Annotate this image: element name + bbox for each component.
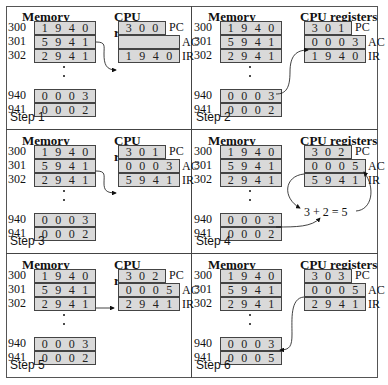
memory-address: 302 bbox=[194, 48, 220, 63]
ir-register: 5941 bbox=[118, 173, 180, 187]
pc-register: 301 bbox=[304, 21, 352, 35]
memory-cell: 2941 bbox=[220, 49, 282, 63]
step-panel-1: MemoryCPU registers300194030159413022941… bbox=[6, 6, 192, 130]
memory-address: 301 bbox=[8, 34, 34, 49]
step-label: Step 2 bbox=[196, 110, 231, 124]
memory-cell: 0003 bbox=[34, 89, 96, 103]
ir-label: IR bbox=[368, 49, 380, 64]
ir-register: 2941 bbox=[118, 297, 180, 311]
ac-label: AC bbox=[368, 283, 385, 298]
memory-cell: 2941 bbox=[34, 173, 96, 187]
memory-address: 301 bbox=[194, 282, 220, 297]
memory-address: 300 bbox=[194, 144, 220, 159]
ac-register bbox=[118, 35, 180, 49]
pc-register: 303 bbox=[304, 269, 352, 283]
step-label: Step 6 bbox=[196, 358, 231, 372]
ir-register: 2941 bbox=[304, 297, 366, 311]
pc-label: PC bbox=[355, 20, 370, 35]
ellipsis-dot bbox=[249, 190, 251, 192]
pc-label: PC bbox=[169, 268, 184, 283]
ir-label: IR bbox=[368, 173, 380, 188]
step-panel-4: MemoryCPU registers300194030159413022941… bbox=[192, 130, 378, 254]
memory-cell: 0003 bbox=[34, 337, 96, 351]
memory-cell: 0003 bbox=[34, 213, 96, 227]
memory-address: 940 bbox=[8, 212, 34, 227]
step-panel-2: MemoryCPU registers300194030159413022941… bbox=[192, 6, 378, 130]
memory-address: 302 bbox=[194, 172, 220, 187]
ellipsis-dot bbox=[63, 199, 65, 201]
pc-register: 302 bbox=[304, 145, 352, 159]
ac-register: 0005 bbox=[304, 159, 366, 173]
pc-label: PC bbox=[355, 144, 370, 159]
ellipsis-dot bbox=[249, 66, 251, 68]
step-panel-6: MemoryCPU registers300194030159413022941… bbox=[192, 254, 378, 378]
ir-register: 1940 bbox=[118, 49, 180, 63]
memory-address: 301 bbox=[194, 34, 220, 49]
ac-register: 0005 bbox=[118, 283, 180, 297]
memory-address: 301 bbox=[8, 158, 34, 173]
memory-address: 302 bbox=[194, 296, 220, 311]
memory-cell: 0003 bbox=[220, 89, 282, 103]
ac-register: 0003 bbox=[304, 35, 366, 49]
memory-cell: 0003 bbox=[220, 213, 282, 227]
memory-address: 302 bbox=[8, 48, 34, 63]
ellipsis-dot bbox=[249, 199, 251, 201]
ir-label: IR bbox=[368, 297, 380, 312]
ellipsis-dot bbox=[63, 75, 65, 77]
ir-register: 5941 bbox=[304, 173, 366, 187]
memory-cell: 5941 bbox=[220, 35, 282, 49]
memory-cell: 1940 bbox=[220, 21, 282, 35]
ellipsis-dot bbox=[63, 66, 65, 68]
step-label: Step 5 bbox=[10, 358, 45, 372]
memory-cell: 2941 bbox=[220, 297, 282, 311]
memory-cell: 5941 bbox=[34, 283, 96, 297]
memory-cell: 2941 bbox=[34, 297, 96, 311]
pc-register: 302 bbox=[118, 269, 166, 283]
memory-cell: 0003 bbox=[220, 337, 282, 351]
ellipsis-dot bbox=[63, 314, 65, 316]
memory-address: 940 bbox=[8, 336, 34, 351]
memory-cell: 1940 bbox=[220, 145, 282, 159]
memory-cell: 1940 bbox=[34, 269, 96, 283]
memory-address: 302 bbox=[8, 172, 34, 187]
step-panel-3: MemoryCPU registers300194030159413022941… bbox=[6, 130, 192, 254]
ac-register: 0003 bbox=[118, 159, 180, 173]
memory-address: 300 bbox=[8, 144, 34, 159]
memory-address: 940 bbox=[194, 88, 220, 103]
memory-cell: 1940 bbox=[34, 21, 96, 35]
memory-cell: 5941 bbox=[34, 159, 96, 173]
step-label: Step 3 bbox=[10, 234, 45, 248]
memory-address: 300 bbox=[8, 20, 34, 35]
ellipsis-dot bbox=[63, 190, 65, 192]
memory-cell: 5941 bbox=[34, 35, 96, 49]
memory-address: 302 bbox=[8, 296, 34, 311]
ac-label: AC bbox=[368, 159, 385, 174]
memory-address: 301 bbox=[194, 158, 220, 173]
memory-address: 940 bbox=[8, 88, 34, 103]
memory-cell: 5941 bbox=[220, 159, 282, 173]
ac-register: 0005 bbox=[304, 283, 366, 297]
memory-address: 300 bbox=[194, 20, 220, 35]
ellipsis-dot bbox=[249, 323, 251, 325]
step-label: Step 1 bbox=[10, 110, 45, 124]
memory-address: 940 bbox=[194, 212, 220, 227]
memory-cell: 2941 bbox=[220, 173, 282, 187]
memory-cell: 2941 bbox=[34, 49, 96, 63]
pc-label: PC bbox=[355, 268, 370, 283]
pc-label: PC bbox=[169, 144, 184, 159]
ellipsis-dot bbox=[249, 75, 251, 77]
ac-label: AC bbox=[368, 35, 385, 50]
pc-register: 300 bbox=[118, 21, 166, 35]
memory-cell: 1940 bbox=[220, 269, 282, 283]
memory-address: 300 bbox=[8, 268, 34, 283]
memory-cell: 5941 bbox=[220, 283, 282, 297]
memory-cell: 1940 bbox=[34, 145, 96, 159]
ir-register: 1940 bbox=[304, 49, 366, 63]
pc-label: PC bbox=[169, 20, 184, 35]
alu-sum-annotation: 3 + 2 = 5 bbox=[304, 205, 348, 220]
memory-address: 301 bbox=[8, 282, 34, 297]
memory-address: 300 bbox=[194, 268, 220, 283]
pc-register: 301 bbox=[118, 145, 166, 159]
ellipsis-dot bbox=[63, 323, 65, 325]
ellipsis-dot bbox=[249, 314, 251, 316]
